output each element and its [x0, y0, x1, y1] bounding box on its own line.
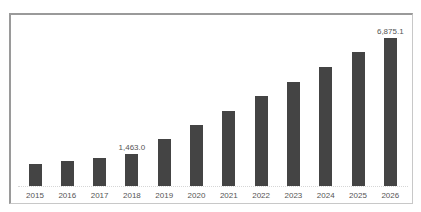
- x-tick-label: 2016: [52, 191, 82, 200]
- bar-2015: [29, 164, 42, 186]
- x-tick-label: 2021: [214, 191, 244, 200]
- bar-2018: [125, 154, 138, 186]
- bar-2021: [222, 111, 235, 186]
- bar-2016: [61, 161, 74, 186]
- bar-2019: [158, 139, 171, 186]
- x-tick-label: 2018: [117, 191, 147, 200]
- x-tick-label: 2025: [343, 191, 373, 200]
- bar-2020: [190, 125, 203, 186]
- x-tick-label: 2020: [182, 191, 212, 200]
- bar-2017: [93, 158, 106, 186]
- bar-2024: [319, 67, 332, 186]
- x-tick-label: 2015: [20, 191, 50, 200]
- x-tick-label: 2019: [149, 191, 179, 200]
- x-tick-label: 2022: [246, 191, 276, 200]
- x-tick-label: 2017: [85, 191, 115, 200]
- bar-chart-plot-area: 20152016201720181,463.020192020202120222…: [0, 0, 421, 212]
- x-tick-label: 2023: [278, 191, 308, 200]
- x-tick-label: 2026: [375, 191, 405, 200]
- data-label-2018: 1,463.0: [107, 143, 157, 152]
- x-tick-label: 2024: [311, 191, 341, 200]
- data-label-2026: 6,875.1: [365, 27, 415, 36]
- bar-2023: [287, 82, 300, 186]
- bar-2022: [255, 96, 268, 186]
- x-axis-baseline: [18, 186, 408, 187]
- bar-2026: [384, 38, 397, 186]
- bar-2025: [352, 52, 365, 186]
